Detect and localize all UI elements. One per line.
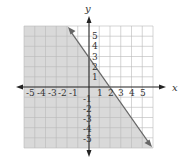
x-tick-label: -2 (58, 88, 67, 98)
x-tick-label: -1 (69, 88, 78, 98)
y-tick-label: -4 (83, 124, 92, 134)
y-axis-down-arrow-icon (87, 150, 92, 157)
x-axis-left-arrow-icon (16, 85, 23, 90)
x-tick-label: 4 (129, 88, 135, 98)
x-tick-label: 3 (118, 88, 124, 98)
x-tick-label: 5 (140, 88, 146, 98)
y-tick-label: 3 (92, 52, 98, 62)
x-tick-label: 2 (108, 88, 114, 98)
y-tick-label: -5 (83, 134, 92, 144)
y-tick-label: 1 (92, 72, 98, 82)
y-tick-label: 2 (92, 62, 98, 72)
y-tick-label: -2 (83, 104, 92, 114)
x-axis-right-arrow-icon (159, 85, 166, 90)
y-tick-label: 4 (92, 41, 98, 51)
x-tick-label: -5 (26, 88, 35, 98)
x-tick-label: 1 (97, 88, 103, 98)
x-axis-label: x (172, 82, 178, 93)
x-tick-label: -4 (37, 88, 46, 98)
y-axis-up-arrow-icon (87, 16, 92, 23)
coordinate-plane: x y -5 -4 -3 -2 -1 1 2 3 4 5 5 4 3 2 1 -… (0, 0, 180, 167)
y-axis-label: y (84, 3, 91, 14)
y-tick-label: 5 (92, 31, 98, 41)
y-tick-label: -1 (83, 94, 92, 104)
x-tick-label: -3 (48, 88, 57, 98)
y-tick-label: -3 (83, 114, 92, 124)
